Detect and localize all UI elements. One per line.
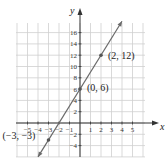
y-tick-label: 6 <box>74 86 78 94</box>
y-tick-label: −2 <box>70 131 78 139</box>
x-axis-label: x <box>159 121 165 132</box>
y-tick-label: 10 <box>70 63 78 71</box>
y-tick-label: 8 <box>74 74 78 82</box>
y-tick-label: −4 <box>70 142 78 150</box>
x-tick-label: 3 <box>110 126 114 134</box>
y-tick-label: 2 <box>74 108 78 116</box>
data-point <box>47 138 51 142</box>
y-axis-arrow-icon <box>78 8 83 15</box>
x-tick-label: 2 <box>99 126 103 134</box>
point-label: (−3, −3) <box>3 130 36 142</box>
x-tick-label: 1 <box>89 126 93 134</box>
data-point <box>99 53 103 57</box>
x-tick-label: −3 <box>45 126 53 134</box>
x-tick-label: −4 <box>34 126 42 134</box>
y-tick-label: 12 <box>70 52 78 60</box>
chart: xy−5−4−3−2−112345−4−2246810121416(−3, −3… <box>0 0 167 164</box>
data-point <box>78 87 82 91</box>
x-tick-label: 5 <box>131 126 135 134</box>
y-tick-label: 16 <box>70 29 78 37</box>
x-tick-label: 4 <box>120 126 124 134</box>
point-label: (0, 6) <box>87 82 109 94</box>
y-tick-label: 14 <box>70 40 78 48</box>
y-axis-label: y <box>69 5 75 16</box>
x-axis-arrow-icon <box>152 121 159 126</box>
point-label: (2, 12) <box>108 50 135 62</box>
